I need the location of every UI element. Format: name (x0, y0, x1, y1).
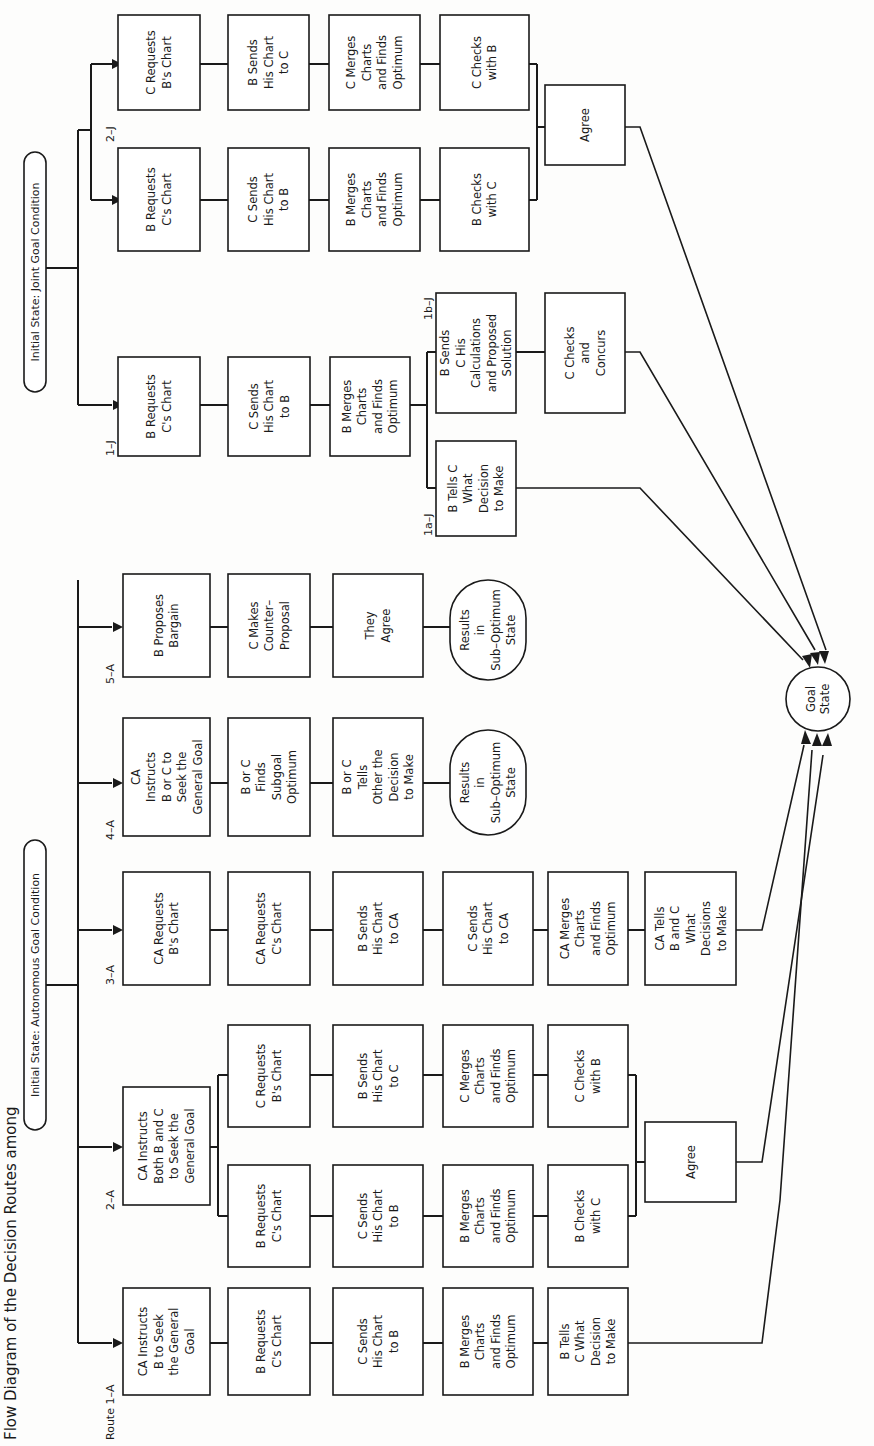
initial-state-joint: Initial State: Joint Goal Condition (24, 152, 46, 392)
route-4a-step-3-line: Tells (356, 765, 370, 791)
route-1a-step-5-line: C What (573, 1320, 587, 1362)
flow-diagram: Flow Diagram of the Decision Routes amon… (0, 0, 874, 1446)
route-4a-step-3-line: B or C (340, 760, 354, 795)
route-4a-step-3-line: to Make (402, 754, 416, 800)
route-3a-step-5-line: Optimum (604, 902, 618, 956)
route-1j-step-2-line: His Chart (262, 379, 276, 433)
route-2a-c-step-3-line: Optimum (504, 1049, 518, 1103)
route-2j-c-step-1: C RequestsB's Chart (118, 15, 200, 110)
route-5a-step-1-line: Bargain (167, 603, 181, 647)
route-2j-c-step-1-line: C Requests (144, 30, 158, 94)
route-2j-c-step-2-line: B Sends (246, 39, 260, 86)
route-3a-step-6-line: Decisions (699, 901, 713, 956)
route-5a-step-2: C MakesCounter–Proposal (228, 574, 310, 677)
route-2a-c-step-4-line: C Checks (573, 1049, 587, 1102)
route-2a-c-step-2-line: to C (387, 1064, 401, 1087)
route-3a-step-5-line: CA Merges (558, 898, 572, 959)
goal-state-line: State (818, 684, 832, 714)
route-2a-agree: Agree (645, 1122, 736, 1202)
route-1j-step-3-line: B Merges (340, 380, 354, 433)
route-2j-c-step-3: C MergesChartsand FindsOptimum (329, 15, 420, 110)
route-1bj-step-2: C ChecksandConcurs (545, 293, 625, 413)
route-label-1aj: 1a–J (422, 514, 435, 536)
route-4a-step-3-line: Other the (371, 749, 385, 804)
route-4a-step-1-line: General Goal (191, 739, 205, 814)
route-4a-step-3: B or CTellsOther theDecisionto Make (333, 718, 423, 836)
flow-diagram-svg: Flow Diagram of the Decision Routes amon… (0, 0, 874, 1446)
route-1j-step-1-line: B Requests (144, 374, 158, 438)
route-2a-start-line: CA Instructs (136, 1111, 150, 1181)
route-3a-step-4: C SendsHis Chartto CA (443, 872, 533, 985)
route-2j-b-step-4-line: with C (485, 181, 499, 217)
route-1j-step-1: B RequestsC's Chart (118, 357, 200, 456)
route-1a-step-3-line: to B (387, 1330, 401, 1353)
route-1aj-step-1: B Tells CWhatDecisionto Make (436, 441, 516, 536)
route-2a-b-step-3-line: B Merges (458, 1189, 472, 1242)
route-3a-step-6-line: What (684, 913, 698, 944)
route-4a-step-1: CAInstructsB or C toSeek theGeneral Goal (123, 718, 210, 836)
route-3a-step-3-line: to CA (387, 913, 401, 944)
route-2a-start: CA InstructsBoth B and Cto Seek theGener… (123, 1087, 210, 1205)
route-1a-step-3-line: His Chart (371, 1314, 385, 1368)
route-3a-step-6-line: CA Tells (653, 906, 667, 950)
route-2a-b-step-4-line: B Checks (573, 1190, 587, 1243)
route-1j-step-2-line: to B (278, 395, 292, 418)
route-1a-step-3: C SendsHis Chartto B (333, 1288, 423, 1395)
route-3a-step-6: CA TellsB and CWhatDecisionsto Make (645, 872, 736, 985)
route-2j-b-step-4-line: B Checks (470, 173, 484, 226)
route-2j-b-step-1-line: B Requests (144, 167, 158, 231)
route-5a-step-2-line: Proposal (278, 601, 292, 650)
route-2a-start-line: to Seek the (167, 1113, 181, 1179)
route-label-1bj: 1b–J (422, 297, 435, 320)
route-3a-step-1-line: CA Requests (152, 892, 166, 964)
route-4a-result-line: State (504, 767, 518, 797)
route-3a-step-5: CA MergesChartsand FindsOptimum (548, 872, 628, 985)
route-3a-step-3: B SendsHis Chartto CA (333, 872, 423, 985)
route-1a-step-2-line: B Requests (254, 1309, 268, 1373)
route-2j-b-step-3-line: Optimum (391, 173, 405, 227)
route-2j-agree-line: Agree (578, 108, 592, 142)
route-5a-result-line: State (504, 615, 518, 645)
route-1a-step-1-line: B to Seek (152, 1314, 166, 1369)
route-label-1j: 1–J (104, 440, 117, 456)
route-label-2a: 2–A (104, 1190, 117, 1210)
route-2j-agree: Agree (545, 85, 625, 165)
initial-state-joint-label: Initial State: Joint Goal Condition (29, 182, 42, 361)
route-4a-step-2-line: B or C (239, 760, 253, 795)
route-2j-c-step-4-line: with B (485, 44, 499, 80)
route-1a-step-1-line: Goal (183, 1328, 197, 1354)
route-label-5a: 5–A (104, 664, 117, 684)
route-1bj-step-1: B SendsC HisCalculationsand ProposedSolu… (436, 293, 516, 413)
route-2j-b-step-1: B RequestsC's Chart (118, 148, 200, 251)
route-2j-c-step-3-line: C Merges (344, 36, 358, 90)
route-5a-step-3: TheyAgree (333, 574, 423, 677)
route-1a-step-5-line: Decision (589, 1317, 603, 1366)
route-3a-step-3-line: His Chart (371, 901, 385, 955)
route-2j-c-step-1-line: B's Chart (160, 36, 174, 89)
route-4a-step-1-line: Seek the (175, 752, 189, 803)
route-3a-step-4-line: to CA (497, 913, 511, 944)
route-2j-b-step-2-line: to B (277, 188, 291, 211)
route-2j-c-step-2: B SendsHis Chartto C (228, 15, 309, 110)
route-2a-c-step-4-line: with B (589, 1058, 603, 1094)
goal-state: GoalState (786, 667, 850, 731)
route-2a-c-step-4: C Checkswith B (548, 1025, 628, 1127)
route-1a-step-5-line: B Tells (558, 1323, 572, 1359)
route-2a-c-step-1-line: C Requests (254, 1044, 268, 1108)
route-4a-result-line: Results (458, 762, 472, 804)
route-1a-step-3-line: C Sends (356, 1318, 370, 1365)
route-4a-step-1-line: B or C to (160, 752, 174, 802)
route-2j-c-step-2-line: His Chart (262, 35, 276, 89)
route-label-1a: Route 1–A (104, 1384, 117, 1440)
route-1aj-step-1-line: B Tells C (446, 465, 460, 513)
route-1a-step-1-line: the General (167, 1308, 181, 1376)
route-1j-step-3: B MergesChartsand FindsOptimum (330, 357, 410, 456)
route-3a-step-2-line: CA Requests (254, 892, 268, 964)
route-2a-b-step-1: B RequestsC's Chart (228, 1165, 310, 1267)
route-2j-b-step-2-line: C Sends (246, 176, 260, 223)
route-2a-c-step-2-line: His Chart (371, 1049, 385, 1103)
route-2j-c-step-3-line: Charts (360, 44, 374, 82)
route-2a-start-line: General Goal (183, 1108, 197, 1183)
route-4a-result-line: in (473, 777, 487, 787)
route-1bj-step-1-line: and Proposed (485, 314, 499, 392)
